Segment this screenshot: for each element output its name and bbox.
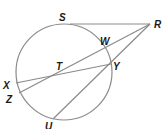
geometry-diagram: S R W Y T X Z U	[0, 0, 168, 129]
label-W: W	[100, 36, 111, 47]
circle	[16, 24, 112, 120]
label-T: T	[56, 61, 63, 72]
label-Z: Z	[5, 94, 13, 105]
secant-RZ	[19, 24, 150, 93]
label-U: U	[45, 121, 53, 129]
label-S: S	[59, 12, 66, 23]
label-X: X	[2, 80, 11, 91]
chord-XY	[16, 64, 111, 83]
label-R: R	[154, 19, 162, 30]
label-Y: Y	[113, 61, 121, 72]
